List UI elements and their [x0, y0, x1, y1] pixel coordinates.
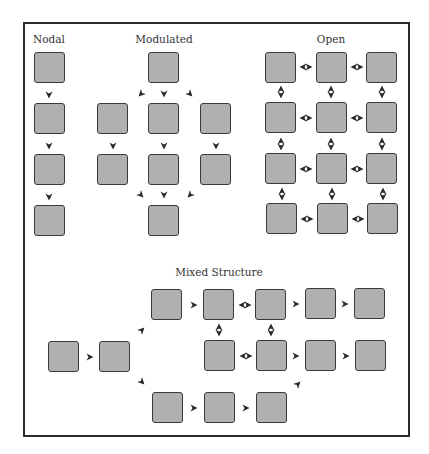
open-node — [316, 52, 347, 83]
mixed-node — [99, 341, 130, 372]
modulated-node — [200, 103, 231, 134]
title-nodal: Nodal — [33, 33, 65, 45]
title-modulated: Modulated — [135, 33, 192, 45]
mixed-node — [256, 392, 287, 423]
modulated-node — [148, 205, 179, 236]
open-node — [366, 52, 397, 83]
open-node — [265, 102, 296, 133]
nodal-node — [34, 52, 65, 83]
modulated-node — [148, 154, 179, 185]
open-node — [367, 203, 398, 234]
modulated-node — [200, 154, 231, 185]
open-node — [366, 153, 397, 184]
diagram-canvas: Nodal Modulated Open Mixed Structure — [0, 0, 429, 454]
mixed-node — [151, 289, 182, 320]
mixed-node — [256, 340, 287, 371]
mixed-node — [255, 289, 286, 320]
open-node — [316, 153, 347, 184]
modulated-node — [148, 103, 179, 134]
open-node — [366, 102, 397, 133]
mixed-node — [203, 289, 234, 320]
mixed-node — [305, 288, 336, 319]
diagram-frame — [23, 22, 410, 437]
nodal-node — [34, 103, 65, 134]
mixed-node — [204, 392, 235, 423]
open-node — [316, 102, 347, 133]
mixed-node — [204, 340, 235, 371]
open-node — [266, 203, 297, 234]
title-open: Open — [317, 33, 345, 45]
mixed-node — [305, 340, 336, 371]
modulated-node — [97, 154, 128, 185]
open-node — [317, 203, 348, 234]
modulated-node — [148, 52, 179, 83]
mixed-node — [48, 341, 79, 372]
modulated-node — [97, 103, 128, 134]
open-node — [265, 52, 296, 83]
mixed-node — [355, 340, 386, 371]
title-mixed-structure: Mixed Structure — [175, 266, 263, 278]
nodal-node — [34, 205, 65, 236]
nodal-node — [34, 154, 65, 185]
open-node — [265, 153, 296, 184]
mixed-node — [152, 392, 183, 423]
mixed-node — [354, 288, 385, 319]
